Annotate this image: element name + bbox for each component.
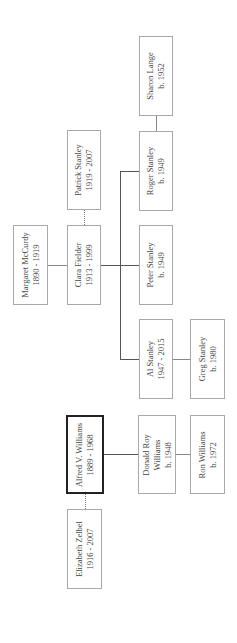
connector-alfred-donald [104,454,138,455]
person-box-clara-fielder[interactable]: Clara Fielder1913 - 1999 [67,225,101,305]
person-dates: b. 1948 [163,434,174,475]
person-dates: 1889 - 1968 [85,422,96,486]
person-name-line-2: Williams [152,434,163,475]
person-name: Al Stanley [145,338,156,379]
person-name: Patrick Stanley [73,144,84,196]
spouse-connector-patrick-clara [84,210,85,225]
person-box-roger-stanley[interactable]: Roger Stanleyb. 1949 [139,131,173,211]
spouse-connector-sharon-roger [156,116,157,131]
person-box-donald-roy-williams[interactable]: Donald RoyWilliamsb. 1948 [138,415,176,494]
connector-donald-ron [176,454,190,455]
person-name: Peter Stanley [145,242,156,287]
person-dates: b. 1949 [156,147,167,195]
connector-to-roger [120,171,139,172]
person-name: Elizabeth Zelbel [74,521,85,577]
person-name-line-1: Donald Roy [141,434,152,475]
person-name: Ron Williams [197,431,208,478]
person-dates: 1919 - 2007 [84,144,95,196]
person-box-elizabeth-zelbel[interactable]: Elizabeth Zelbel1916 - 2007 [67,509,102,589]
person-box-peter-stanley[interactable]: Peter Stanleyb. 1949 [139,225,173,305]
person-dates: 1916 - 2007 [85,521,96,577]
person-dates: b. 1952 [156,52,167,99]
person-name: Clara Fielder [73,243,84,288]
person-box-patrick-stanley[interactable]: Patrick Stanley1919 - 2007 [67,130,101,210]
spouse-connector-alfred-elizabeth [85,494,86,509]
person-name: Roger Stanley [145,147,156,195]
person-box-ron-williams[interactable]: Ron Williamsb. 1972 [190,415,225,494]
person-dates: 1913 - 1999 [84,243,95,288]
person-name: Margaret McCurdy [20,232,31,298]
person-box-margaret-mccurdy[interactable]: Margaret McCurdy1890 - 1919 [13,225,48,305]
person-dates: b. 1980 [208,337,219,382]
person-name: Sharon Lange [145,52,156,99]
person-dates: 1947 - 2015 [156,338,167,379]
person-box-sharon-lange[interactable]: Sharon Langeb. 1952 [139,36,173,116]
family-tree-diagram: Sharon Langeb. 1952 Patrick Stanley1919 … [0,0,237,643]
person-box-greg-stanley[interactable]: Greg Stanleyb. 1980 [190,319,225,399]
connector-children-trunk [120,171,121,359]
connector-to-al [120,359,139,360]
person-dates: b. 1972 [208,431,219,478]
person-dates: 1890 - 1919 [31,232,42,298]
connector-al-greg [173,359,190,360]
person-box-al-stanley[interactable]: Al Stanley1947 - 2015 [139,319,173,399]
person-name: Greg Stanley [197,337,208,382]
person-box-alfred-v-williams[interactable]: Alfred V. Williams1889 - 1968 [66,415,104,494]
connector-margaret-clara [48,265,67,266]
person-dates: b. 1949 [156,242,167,287]
person-name: Alfred V. Williams [74,422,85,486]
